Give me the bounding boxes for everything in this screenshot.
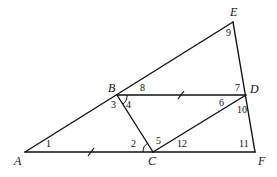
angle-label-4: 4 xyxy=(126,99,131,110)
geometry-diagram: ABCDEF 123456789101112 xyxy=(0,0,277,177)
point-label-E: E xyxy=(229,5,238,19)
angle-arc-2 xyxy=(143,143,148,152)
angle-label-9: 9 xyxy=(226,27,231,38)
point-label-B: B xyxy=(108,81,116,95)
angle-label-7: 7 xyxy=(235,82,240,93)
point-label-D: D xyxy=(249,82,259,96)
angle-label-8: 8 xyxy=(140,82,145,93)
angle-label-10: 10 xyxy=(237,104,247,115)
point-label-C: C xyxy=(148,154,157,168)
angle-label-6: 6 xyxy=(219,97,224,108)
segment-CD xyxy=(153,95,246,152)
angle-label-1: 1 xyxy=(46,138,51,149)
angle-labels: 123456789101112 xyxy=(46,27,249,149)
congruence-ticks xyxy=(88,91,184,156)
angle-label-12: 12 xyxy=(177,138,187,149)
point-label-A: A xyxy=(13,154,22,168)
angle-label-2: 2 xyxy=(131,138,136,149)
segment-AE xyxy=(25,22,233,152)
angle-label-3: 3 xyxy=(111,99,116,110)
diagram-svg: ABCDEF 123456789101112 xyxy=(0,0,277,177)
angle-label-5: 5 xyxy=(156,135,161,146)
point-label-F: F xyxy=(257,154,266,168)
angle-label-11: 11 xyxy=(239,138,249,149)
